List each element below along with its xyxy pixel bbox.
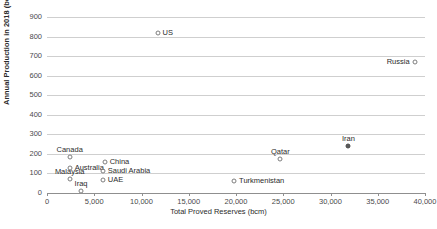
- x-axis-tick-mark: [47, 193, 48, 196]
- y-axis-tick-label: 600: [29, 72, 42, 80]
- y-axis-tick-label: 200: [29, 150, 42, 158]
- gridline-y-500: [47, 95, 425, 96]
- x-axis-tick-mark: [283, 193, 284, 196]
- y-axis-tick-label: 500: [29, 91, 42, 99]
- data-label-iraq: Iraq: [75, 179, 88, 187]
- data-label-qatar: Qatar: [271, 147, 290, 155]
- x-axis-tick-label: 15,000: [177, 198, 200, 206]
- data-label-turkmenistan: Turkmenistan: [239, 177, 284, 185]
- scatter-chart: Annual Production in 2018 (bcm) 01002003…: [0, 0, 437, 229]
- data-point-russia[interactable]: [412, 59, 417, 64]
- data-point-malaysia[interactable]: [67, 176, 72, 181]
- data-point-us[interactable]: [155, 30, 160, 35]
- data-point-turkmenistan[interactable]: [232, 178, 237, 183]
- y-axis-tick-label: 100: [29, 170, 42, 178]
- gridline-y-600: [47, 76, 425, 77]
- gridline-y-100: [47, 173, 425, 174]
- plot-area: 0100200300400500600700800900USRussiaIran…: [47, 17, 425, 193]
- data-label-canada: Canada: [57, 145, 83, 153]
- gridline-y-300: [47, 134, 425, 135]
- gridline-y-800: [47, 37, 425, 38]
- data-label-malaysia: Malaysia: [55, 167, 85, 175]
- data-label-iran: Iran: [342, 135, 355, 143]
- x-axis-tick-mark: [425, 193, 426, 196]
- y-axis-tick-label: 400: [29, 111, 42, 119]
- x-axis-tick-label: 25,000: [272, 198, 295, 206]
- x-axis-tick-mark: [94, 193, 95, 196]
- x-axis-tick-label: 30,000: [319, 198, 342, 206]
- x-axis-tick-mark: [331, 193, 332, 196]
- gridline-y-400: [47, 115, 425, 116]
- data-point-uae[interactable]: [100, 178, 105, 183]
- x-axis-tick-label: 20,000: [225, 198, 248, 206]
- data-point-canada[interactable]: [67, 154, 72, 159]
- gridline-y-700: [47, 56, 425, 57]
- x-axis-tick-mark: [189, 193, 190, 196]
- y-axis-tick-label: 0: [38, 189, 42, 197]
- data-label-us: US: [163, 29, 173, 37]
- x-axis-tick-label: 5,000: [85, 198, 104, 206]
- gridline-y-900: [47, 17, 425, 18]
- y-axis-title: Annual Production in 2018 (bcm): [3, 0, 11, 105]
- data-point-qatar[interactable]: [278, 156, 283, 161]
- data-point-saudi-arabia[interactable]: [100, 169, 105, 174]
- data-label-china: China: [110, 158, 130, 166]
- data-point-iran[interactable]: [346, 144, 351, 149]
- x-axis-tick-mark: [378, 193, 379, 196]
- x-axis-tick-mark: [236, 193, 237, 196]
- x-axis-tick-label: 35,000: [366, 198, 389, 206]
- data-label-uae: UAE: [108, 177, 123, 185]
- data-label-saudi-arabia: Saudi Arabia: [108, 167, 151, 175]
- data-label-russia: Russia: [387, 58, 410, 66]
- y-axis-tick-label: 700: [29, 52, 42, 60]
- x-axis-tick-label: 40,000: [414, 198, 437, 206]
- x-axis-tick-mark: [142, 193, 143, 196]
- gridline-y-200: [47, 154, 425, 155]
- y-axis-tick-label: 900: [29, 13, 42, 21]
- x-axis-title: Total Proved Reserves (bcm): [0, 208, 437, 216]
- y-axis-tick-label: 300: [29, 131, 42, 139]
- x-axis-tick-label: 0: [45, 198, 49, 206]
- x-axis-tick-label: 10,000: [130, 198, 153, 206]
- y-axis-tick-label: 800: [29, 33, 42, 41]
